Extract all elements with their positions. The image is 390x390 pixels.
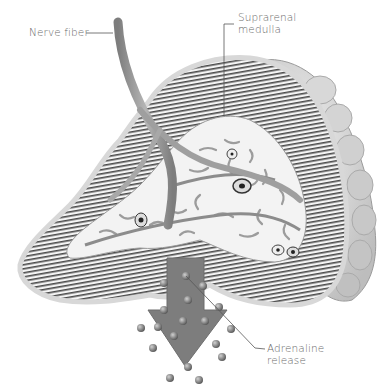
label-suprarenal-medulla: Suprarenal medulla <box>238 11 296 35</box>
label-suprarenal-line1: Suprarenal <box>238 11 296 23</box>
diagram-illustration <box>0 0 390 390</box>
adrenal-gland-diagram: Nerve fiber Suprarenal medulla Adrenalin… <box>0 0 390 390</box>
label-nerve-fiber: Nerve fiber <box>29 26 89 38</box>
label-suprarenal-line2: medulla <box>238 23 296 35</box>
label-adrenaline-line1: Adrenaline <box>267 342 324 354</box>
label-adrenaline-line2: release <box>267 354 324 366</box>
label-adrenaline-release: Adrenaline release <box>267 342 324 366</box>
